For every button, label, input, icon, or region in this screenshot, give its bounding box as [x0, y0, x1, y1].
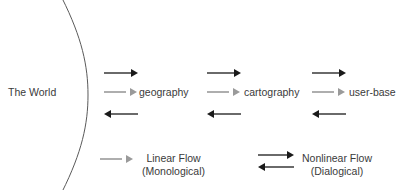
flow-group-cartography-to-user-base [312, 66, 346, 122]
arrow-nonlinear-forward-2 [207, 69, 241, 77]
legend-arrow-right [258, 151, 294, 159]
legend-label-linear-flow-line2: (Monological) [142, 165, 205, 178]
arrow-nonlinear-back-3 [312, 110, 346, 118]
arrow-nonlinear-forward-1 [104, 69, 138, 77]
diagram-canvas: The World geography cartography user-bas… [0, 0, 402, 190]
flow-group-geography-to-cartography [207, 66, 241, 122]
legend-swatch-linear-flow [100, 153, 134, 165]
arrow-nonlinear-back-2 [207, 110, 241, 118]
arrow-linear-forward-3 [312, 88, 345, 96]
legend-swatch-nonlinear-flow [258, 150, 294, 172]
arrow-nonlinear-back-1 [104, 110, 138, 118]
legend-label-nonlinear-flow-line1: Nonlinear Flow [302, 152, 372, 165]
legend-arrow-left [258, 163, 294, 171]
arrow-nonlinear-forward-3 [312, 69, 346, 77]
node-label-world: The World [8, 86, 56, 98]
legend-label-linear-flow-line1: Linear Flow [142, 152, 205, 165]
node-label-cartography: cartography [244, 86, 299, 98]
legend-label-nonlinear-flow: Nonlinear Flow (Dialogical) [302, 152, 372, 178]
flow-group-world-to-geography [104, 66, 138, 122]
node-label-user-base: user-base [349, 86, 396, 98]
arrow-linear-forward-1 [104, 88, 137, 96]
legend-label-linear-flow: Linear Flow (Monological) [142, 152, 205, 178]
node-label-geography: geography [139, 86, 189, 98]
arrow-linear-forward-2 [207, 88, 240, 96]
legend-label-nonlinear-flow-line2: (Dialogical) [302, 165, 372, 178]
